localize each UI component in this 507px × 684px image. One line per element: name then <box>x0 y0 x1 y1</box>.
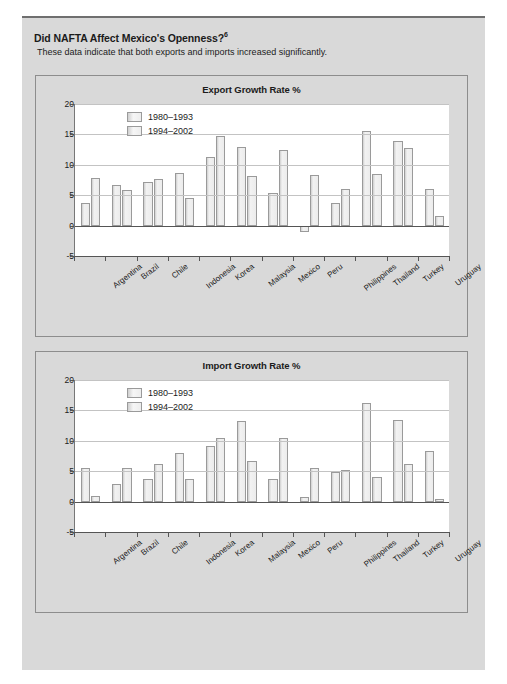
x-label-turkey: Turkey <box>421 262 446 284</box>
gridline <box>75 104 449 105</box>
x-tick-mark <box>74 256 75 261</box>
x-label-korea: Korea <box>233 538 255 558</box>
bar-philippines-series1 <box>331 203 340 225</box>
figure-title-superscript: 6 <box>224 31 228 38</box>
import-x-labels: ArgentinaBrazilChileIndonesiaKoreaMalays… <box>74 538 449 596</box>
bar-korea-series1 <box>206 157 215 226</box>
legend-swatch-icon <box>127 402 142 412</box>
bar-malaysia-series2 <box>247 461 256 502</box>
bar-indonesia-series2 <box>185 479 194 501</box>
legend-entry-series1: 1980–1993 <box>127 112 193 122</box>
legend-label-series2: 1994–2002 <box>148 402 193 412</box>
x-tick-mark <box>230 256 231 261</box>
figure-title-text: Did NAFTA Affect Mexico's Openness? <box>34 32 224 44</box>
x-tick-mark <box>449 532 450 537</box>
bar-chile-series2 <box>154 179 163 225</box>
figure-header: Did NAFTA Affect Mexico's Openness?6 The… <box>22 18 485 58</box>
bar-philippines-series2 <box>341 470 350 502</box>
x-tick-mark <box>199 532 200 537</box>
legend-entry-series2: 1994–2002 <box>127 402 193 412</box>
import-plot-wrap: 20151050-5 1980–1993 1994–2002 <box>36 380 467 552</box>
bar-korea-series1 <box>206 446 215 501</box>
bar-peru-series2 <box>310 175 319 225</box>
x-label-philippines: Philippines <box>362 538 398 569</box>
bar-malaysia-series2 <box>247 176 256 226</box>
x-tick-mark <box>418 532 419 537</box>
x-label-peru: Peru <box>326 538 345 556</box>
legend-swatch-icon <box>127 126 142 136</box>
bar-chile-series1 <box>143 479 152 502</box>
bar-thailand-series2 <box>372 174 381 226</box>
x-tick-mark <box>387 532 388 537</box>
x-label-brazil: Brazil <box>139 538 160 557</box>
bar-turkey-series1 <box>393 141 402 226</box>
x-tick-mark <box>137 532 138 537</box>
export-plot-area: 1980–1993 1994–2002 <box>74 104 449 256</box>
x-tick-mark <box>230 532 231 537</box>
bar-thailand-series1 <box>362 403 371 501</box>
export-chart-container: Export Growth Rate % 20151050-5 1980–199… <box>35 75 468 337</box>
gridline <box>75 380 449 381</box>
bar-uruguay-series2 <box>435 216 444 226</box>
figure-panel: Did NAFTA Affect Mexico's Openness?6 The… <box>22 16 485 670</box>
x-tick-mark <box>105 532 106 537</box>
export-y-axis: 20151050-5 <box>36 104 74 256</box>
legend-label-series1: 1980–1993 <box>148 112 193 122</box>
bar-brazil-series1 <box>112 185 121 226</box>
legend-entry-series2: 1994–2002 <box>127 126 193 136</box>
x-tick-mark <box>137 256 138 261</box>
bar-malaysia-series1 <box>237 147 246 226</box>
x-label-mexico: Mexico <box>297 262 323 285</box>
import-chart-container: Import Growth Rate % 20151050-5 1980–199… <box>35 351 468 613</box>
x-tick-mark <box>387 256 388 261</box>
x-label-indonesia: Indonesia <box>205 262 238 290</box>
bar-argentina-series2 <box>91 178 100 225</box>
zero-line <box>75 502 449 503</box>
gridline <box>75 471 449 472</box>
bar-mexico-series2 <box>279 150 288 226</box>
bar-argentina-series1 <box>81 468 90 501</box>
x-tick-mark <box>168 532 169 537</box>
x-label-malaysia: Malaysia <box>267 262 297 289</box>
gridline <box>75 195 449 196</box>
x-label-mexico: Mexico <box>297 538 323 561</box>
x-label-argentina: Argentina <box>111 538 144 566</box>
bar-chile-series1 <box>143 182 152 225</box>
x-label-malaysia: Malaysia <box>267 538 297 565</box>
x-label-uruguay: Uruguay <box>454 538 483 564</box>
bar-korea-series2 <box>216 438 225 501</box>
bar-turkey-series1 <box>393 420 402 501</box>
bar-thailand-series1 <box>362 131 371 226</box>
bar-korea-series2 <box>216 136 225 226</box>
x-tick-mark <box>293 532 294 537</box>
bar-uruguay-series1 <box>425 451 434 502</box>
x-tick-mark <box>418 256 419 261</box>
x-label-turkey: Turkey <box>421 538 446 560</box>
legend-swatch-icon <box>127 112 142 122</box>
bar-turkey-series2 <box>404 464 413 502</box>
x-label-argentina: Argentina <box>111 262 144 290</box>
export-legend: 1980–1993 1994–2002 <box>127 112 193 140</box>
x-tick-mark <box>262 256 263 261</box>
x-label-indonesia: Indonesia <box>205 538 238 566</box>
x-tick-mark <box>74 532 75 537</box>
zero-line <box>75 226 449 227</box>
page-root: Did NAFTA Affect Mexico's Openness?6 The… <box>0 0 507 684</box>
x-tick-mark <box>262 532 263 537</box>
x-tick-mark <box>449 256 450 261</box>
bar-argentina-series1 <box>81 203 90 226</box>
bar-indonesia-series2 <box>185 198 194 225</box>
bar-brazil-series1 <box>112 484 121 502</box>
bar-thailand-series2 <box>372 477 381 502</box>
import-plot-area: 1980–1993 1994–2002 <box>74 380 449 532</box>
x-tick-mark <box>293 256 294 261</box>
gridline <box>75 165 449 166</box>
x-tick-mark <box>105 256 106 261</box>
x-label-philippines: Philippines <box>362 262 398 293</box>
figure-subtitle: These data indicate that both exports an… <box>34 47 485 58</box>
legend-label-series2: 1994–2002 <box>148 126 193 136</box>
x-tick-mark <box>199 256 200 261</box>
bar-mexico-series1 <box>268 193 277 225</box>
figure-title: Did NAFTA Affect Mexico's Openness?6 <box>34 29 485 44</box>
bar-turkey-series2 <box>404 148 413 225</box>
